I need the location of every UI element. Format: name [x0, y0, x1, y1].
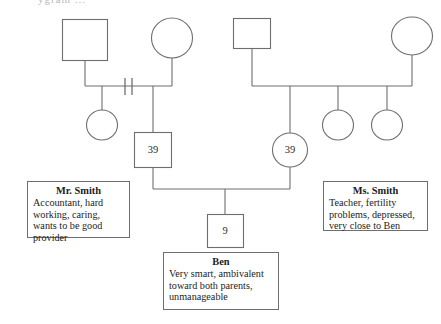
father-age-label: 39 [148, 144, 159, 155]
paternal-grandfather-square[interactable] [63, 20, 108, 61]
note-ms-smith-body: Teacher, fertility problems, depressed, … [329, 197, 422, 232]
note-ben-title: Ben [169, 256, 273, 268]
note-ben-body: Very smart, ambivalent toward both paren… [169, 268, 273, 303]
maternal-sister-2-circle[interactable] [372, 110, 403, 140]
note-mr-smith[interactable]: Mr. Smith Accountant, hard working, cari… [27, 181, 130, 238]
genogram-canvas: ygram ... 39 39 [0, 0, 441, 324]
note-ben[interactable]: Ben Very smart, ambivalent toward both p… [163, 252, 279, 310]
note-mr-smith-body: Accountant, hard working, caring, wants … [33, 197, 124, 243]
maternal-grandfather-square[interactable] [234, 19, 271, 49]
note-mr-smith-title: Mr. Smith [33, 185, 124, 197]
note-ms-smith[interactable]: Ms. Smith Teacher, fertility problems, d… [323, 181, 428, 231]
note-ms-smith-title: Ms. Smith [329, 185, 422, 197]
paternal-aunt-circle[interactable] [87, 110, 118, 140]
paternal-grandmother-circle[interactable] [152, 18, 193, 58]
child-age-label: 9 [222, 225, 227, 236]
mother-age-label: 39 [285, 144, 296, 155]
maternal-grandmother-circle[interactable] [392, 17, 433, 55]
maternal-sister-1-circle[interactable] [323, 110, 354, 140]
